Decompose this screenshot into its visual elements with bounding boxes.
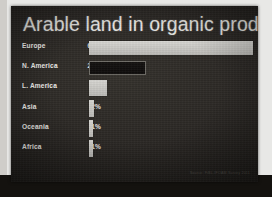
bar-asia [89,100,94,117]
category-label: Africa [22,143,78,150]
category-label: L. America [22,82,78,89]
bar-track [89,99,258,119]
slide-title: Arable land in organic production [23,13,251,36]
category-label: Oceania [22,123,78,130]
photo-frame: Arable land in organic production Europe… [0,0,272,197]
chart-row: N. America 23% [11,58,258,78]
bar-track [89,58,258,78]
chart-row: Asia 2% [11,99,258,119]
bar-track [89,119,258,139]
bar-europe [89,41,253,55]
chart-row: Africa 1% [11,139,258,159]
frame-left-margin [0,0,7,197]
bar-oceania [89,120,93,137]
category-label: Asia [22,103,78,110]
bar-track [89,38,258,58]
bar-africa [89,140,93,157]
bar-n-america [89,61,146,75]
chart-row: L. America 7% [11,78,258,98]
bar-track [89,78,258,98]
chart-row: Oceania 1% [11,119,258,139]
source-credit: Source: FiBL-IFOAM Survey 2011 [190,171,250,175]
presentation-slide: Arable land in organic production Europe… [11,6,258,182]
category-label: N. America [22,62,78,69]
bar-chart: Europe 66% N. America 23% L. America 7% [11,38,258,168]
bar-track [89,139,258,159]
bar-l-america [89,80,107,96]
category-label: Europe [22,42,78,49]
chart-row: Europe 66% [11,38,258,58]
